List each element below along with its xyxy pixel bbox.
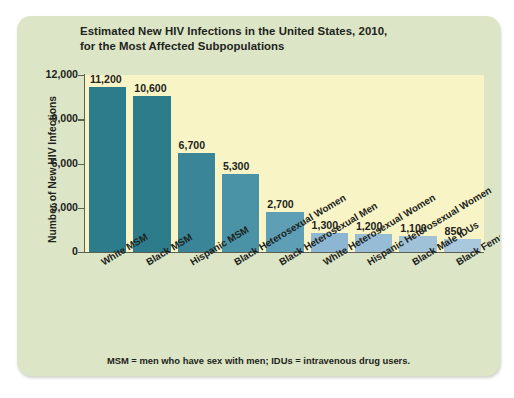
bar-value-label: 6,700 [179,139,206,151]
bar [89,87,126,252]
y-axis-tick-label: 12,000 [26,68,78,80]
chart-card: Estimated New HIV Infections in the Unit… [17,16,500,376]
y-axis-tick [78,164,85,165]
y-axis-tick-label: 0 [26,245,78,257]
bar-value-label: 2,700 [267,198,294,210]
chart-footnote: MSM = men who have sex with men; IDUs = … [17,355,500,366]
figure-root: Estimated New HIV Infections in the Unit… [0,0,514,398]
y-axis-tick [78,208,85,209]
bar-value-label: 11,200 [90,73,122,85]
bar-value-label: 5,300 [223,160,250,172]
chart-title-line-2: for the Most Affected Subpopulations [80,39,470,54]
chart-title-line-1: Estimated New HIV Infections in the Unit… [80,25,387,37]
y-axis-tick [78,119,85,120]
y-axis-tick-label: 9,000 [26,112,78,124]
chart-title: Estimated New HIV Infections in the Unit… [80,24,470,54]
y-axis-tick [78,252,85,253]
y-axis-tick-label: 3,000 [26,201,78,213]
bar-value-label: 10,600 [134,82,166,94]
bar [133,96,170,252]
y-axis-tick-label: 6,000 [26,157,78,169]
y-axis-tick [78,75,85,76]
y-axis-title: Number of New HIV Infections [47,75,58,265]
